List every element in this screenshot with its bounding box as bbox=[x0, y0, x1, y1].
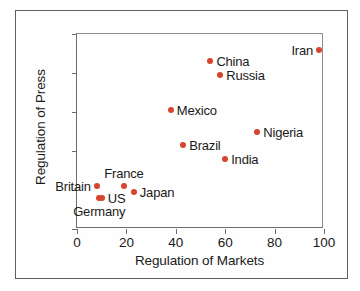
scatter-chart: Regulation of Press Regulation of Market… bbox=[0, 0, 360, 291]
x-tick-label: 40 bbox=[156, 236, 196, 250]
data-point-label: China bbox=[216, 55, 249, 68]
x-axis-title: Regulation of Markets bbox=[76, 253, 323, 268]
x-tick bbox=[225, 229, 226, 234]
x-tick bbox=[176, 229, 177, 234]
data-point-label: Germany bbox=[73, 205, 125, 218]
data-point bbox=[180, 142, 186, 148]
data-point bbox=[316, 47, 322, 53]
x-tick-label: 20 bbox=[106, 236, 146, 250]
data-point-label: Iran bbox=[291, 43, 313, 56]
data-point-label: Japan bbox=[140, 185, 174, 198]
data-point-label: Nigeria bbox=[263, 125, 303, 138]
data-point bbox=[94, 183, 100, 189]
y-tick bbox=[72, 73, 77, 74]
x-tick bbox=[77, 229, 78, 234]
plot-area: 020406080100 020406080100 IranChinaRussi… bbox=[76, 33, 323, 228]
y-tick bbox=[72, 112, 77, 113]
x-tick-label: 100 bbox=[304, 236, 344, 250]
data-point-label: Russia bbox=[226, 68, 265, 81]
data-point bbox=[131, 189, 137, 195]
x-tick bbox=[324, 229, 325, 234]
data-point bbox=[217, 72, 223, 78]
data-point-label: US bbox=[108, 191, 126, 204]
data-point bbox=[254, 129, 260, 135]
data-point-label: Britain bbox=[55, 180, 90, 193]
x-tick-label: 80 bbox=[255, 236, 295, 250]
data-point-label: Mexico bbox=[177, 104, 217, 117]
data-point bbox=[121, 183, 127, 189]
x-tick bbox=[275, 229, 276, 234]
y-axis-title: Regulation of Press bbox=[33, 69, 48, 185]
y-tick bbox=[72, 34, 77, 35]
data-point-label: France bbox=[104, 167, 143, 180]
data-point-label: India bbox=[231, 152, 258, 165]
x-tick-label: 60 bbox=[205, 236, 245, 250]
x-tick-label: 0 bbox=[57, 236, 97, 250]
data-point bbox=[222, 156, 228, 162]
y-tick bbox=[72, 151, 77, 152]
data-point bbox=[207, 58, 213, 64]
data-point bbox=[96, 195, 102, 201]
x-tick bbox=[126, 229, 127, 234]
data-point-label: Brazil bbox=[189, 139, 220, 152]
data-point bbox=[168, 107, 174, 113]
